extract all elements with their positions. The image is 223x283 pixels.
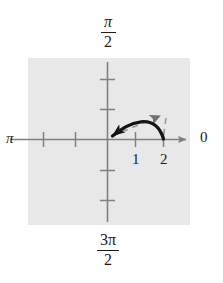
- y-axis-bottom-label-numerator: 3π: [91, 232, 125, 250]
- y-axis-top-label-numerator: π: [94, 14, 122, 32]
- x-tick-label-one: 1: [132, 152, 140, 167]
- y-axis-bottom-label-denominator: 2: [91, 251, 125, 269]
- x-tick-label-two: 2: [160, 152, 168, 167]
- x-axis-right-label: 0: [200, 130, 208, 145]
- y-axis-top-label-denominator: 2: [94, 33, 122, 51]
- y-axis-top-label: π 2: [94, 14, 122, 50]
- figure-root: π 2 3π 2 π 0 1 2: [0, 0, 223, 283]
- x-axis-left-label: π: [6, 131, 14, 146]
- y-axis-bottom-label: 3π 2: [91, 232, 125, 268]
